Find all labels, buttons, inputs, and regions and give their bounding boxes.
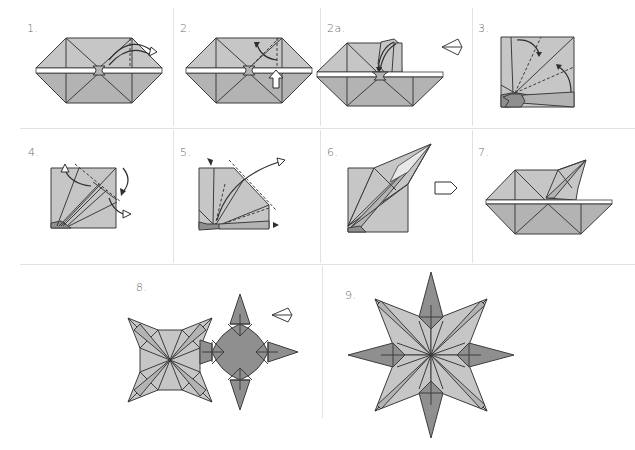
next-arrow-icon (442, 39, 462, 55)
step-9-final-star (348, 272, 514, 438)
step-8-light-unit (128, 318, 212, 402)
step-4-figure (51, 164, 131, 228)
step-2a-figure (317, 39, 443, 106)
origami-figures: .lt { fill:#c6c6c6; stroke:#3c3c3c; stro… (0, 0, 635, 450)
step-1-figure (36, 38, 162, 103)
step-7-figure (486, 160, 612, 234)
next-arrow-icon (435, 182, 457, 194)
next-arrow-icon (272, 308, 292, 322)
step-6-figure (348, 144, 431, 232)
step-2-figure (186, 38, 312, 103)
step-8-dark-unit (200, 294, 298, 410)
step-5-figure (199, 158, 285, 230)
step-3-figure (501, 37, 574, 107)
